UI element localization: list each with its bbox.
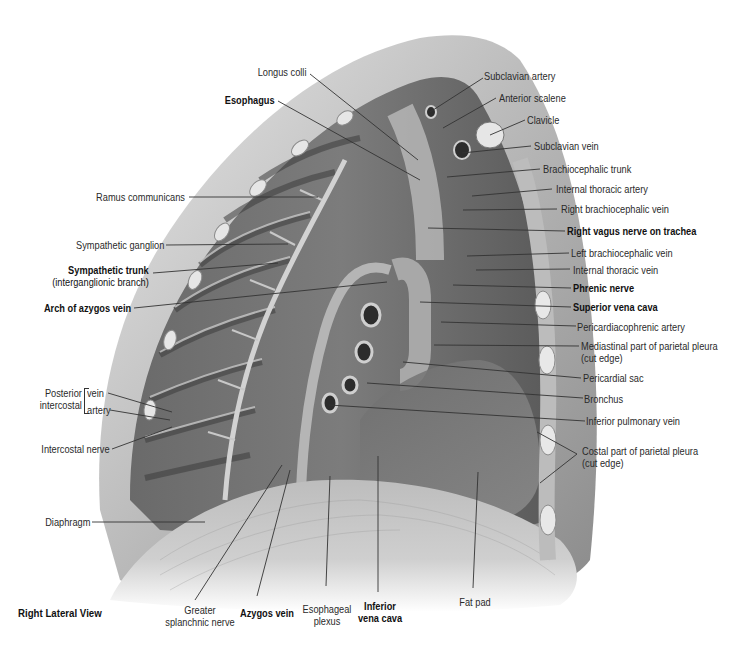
costal-pleura-title: Costal part of parietal pleura <box>582 445 698 457</box>
label-pericardiacophrenic-artery: Pericardiacophrenic artery <box>577 321 685 333</box>
subclavian-artery-cut <box>426 106 436 118</box>
label-diaphragm: Diaphragm <box>45 516 90 528</box>
greater-splanchnic-line2: splanchnic nerve <box>156 616 244 628</box>
label-internal-thoracic-vein: Internal thoracic vein <box>573 264 658 276</box>
label-right-vagus-nerve: Right vagus nerve on trachea <box>567 225 696 237</box>
label-inferior-vena-cava: Inferior vena cava <box>354 600 407 624</box>
posterior-text: Posterior <box>45 387 82 399</box>
label-artery: artery <box>87 404 111 416</box>
label-ramus-communicans: Ramus communicans <box>96 191 185 203</box>
label-fat-pad: Fat pad <box>453 596 497 608</box>
costal-pleura-subtitle: (cut edge) <box>582 457 698 469</box>
label-right-brachiocephalic-vein: Right brachiocephalic vein <box>561 203 669 215</box>
label-arch-of-azygos-vein: Arch of azygos vein <box>44 302 131 314</box>
label-longus-colli: Longus colli <box>257 66 306 78</box>
sympathetic-trunk-subtitle: (interganglionic branch) <box>52 276 149 288</box>
label-costal-pleura: Costal part of parietal pleura (cut edge… <box>582 445 698 469</box>
label-subclavian-vein: Subclavian vein <box>534 140 599 152</box>
esophageal-plexus-line2: plexus <box>300 615 355 627</box>
label-brachiocephalic-trunk: Brachiocephalic trunk <box>543 163 631 175</box>
label-pericardial-sac: Pericardial sac <box>583 372 644 384</box>
label-vein: vein <box>87 387 104 399</box>
label-bronchus: Bronchus <box>584 393 623 405</box>
mediastinal-pleura-title: Mediastinal part of parietal pleura <box>581 340 718 352</box>
label-greater-splanchnic-nerve: Greater splanchnic nerve <box>156 604 244 628</box>
subclavian-vein-cut <box>454 141 470 159</box>
label-internal-thoracic-artery: Internal thoracic artery <box>556 183 648 195</box>
inferior-vena-cava-line1: Inferior <box>364 600 396 612</box>
intercostal-text: intercostal <box>40 399 82 411</box>
esophageal-plexus-line1: Esophageal <box>303 603 352 615</box>
label-inferior-pulmonary-vein: Inferior pulmonary vein <box>586 415 680 427</box>
label-esophagus: Esophagus <box>225 94 275 106</box>
label-superior-vena-cava: Superior vena cava <box>573 301 658 313</box>
label-phrenic-nerve: Phrenic nerve <box>573 282 634 294</box>
label-mediastinal-pleura: Mediastinal part of parietal pleura (cut… <box>581 340 718 364</box>
sympathetic-trunk-title: Sympathetic trunk <box>68 264 149 276</box>
label-anterior-scalene: Anterior scalene <box>499 92 566 104</box>
label-posterior-intercostal: Posterior intercostal <box>40 387 82 411</box>
greater-splanchnic-line1: Greater <box>184 604 215 616</box>
label-clavicle: Clavicle <box>527 114 559 126</box>
view-caption: Right Lateral View <box>18 607 102 619</box>
label-sympathetic-ganglion: Sympathetic ganglion <box>76 239 164 251</box>
label-subclavian-artery: Subclavian artery <box>484 70 555 82</box>
label-left-brachiocephalic-vein: Left brachiocephalic vein <box>571 247 673 259</box>
label-sympathetic-trunk: Sympathetic trunk (interganglionic branc… <box>52 264 149 288</box>
label-azygos-vein: Azygos vein <box>236 607 298 619</box>
label-intercostal-nerve: Intercostal nerve <box>42 443 110 455</box>
inferior-vena-cava-line2: vena cava <box>354 612 407 624</box>
label-esophageal-plexus: Esophageal plexus <box>300 603 355 627</box>
mediastinal-pleura-subtitle: (cut edge) <box>581 352 718 364</box>
